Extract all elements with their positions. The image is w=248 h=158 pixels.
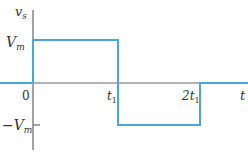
x-axis-label: t [240,88,246,103]
vm-negative-label: −Vm [2,117,32,135]
square-wave-diagram: vs Vm −Vm 0 t1 2t1 t [0,0,248,158]
vm-positive-label: Vm [6,34,25,52]
y-axis-label: vs [15,4,27,21]
origin-label: 0 [22,89,30,103]
t1-label: t1 [107,89,117,105]
2t1-label: 2t1 [181,89,200,105]
